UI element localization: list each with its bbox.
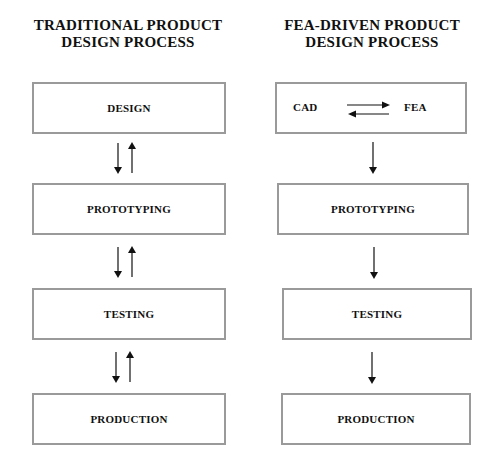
- down-arrow-icon: [367, 245, 381, 281]
- down-arrow-icon: [366, 140, 380, 176]
- traditional-process-title: TRADITIONAL PRODUCT DESIGN PROCESS: [18, 17, 238, 51]
- production-box: PRODUCTION: [32, 393, 226, 445]
- testing-box: TESTING: [32, 288, 226, 340]
- cad-fea-box: CAD FEA: [275, 82, 467, 134]
- down-arrow-icon: [365, 350, 379, 386]
- step-label: TESTING: [352, 308, 402, 320]
- title-line: TRADITIONAL PRODUCT: [18, 17, 238, 34]
- fea-production-box: PRODUCTION: [281, 393, 471, 445]
- cad-label: CAD: [293, 101, 317, 113]
- step-label: PRODUCTION: [337, 413, 414, 425]
- title-line: FEA-DRIVEN PRODUCT: [262, 17, 482, 34]
- fea-testing-box: TESTING: [282, 288, 472, 340]
- bidirectional-arrow-icon: [110, 244, 140, 280]
- step-label: PROTOTYPING: [87, 203, 171, 215]
- bidirectional-arrow-icon: [110, 140, 140, 176]
- fea-label: FEA: [404, 101, 427, 113]
- bidirectional-arrow-icon: [108, 349, 138, 385]
- fea-prototyping-box: PROTOTYPING: [277, 183, 469, 235]
- bidirectional-horizontal-arrow-icon: [345, 98, 393, 120]
- design-box: DESIGN: [32, 82, 226, 134]
- title-line: DESIGN PROCESS: [262, 34, 482, 51]
- step-label: TESTING: [104, 308, 154, 320]
- step-label: PROTOTYPING: [331, 203, 415, 215]
- fea-process-title: FEA-DRIVEN PRODUCT DESIGN PROCESS: [262, 17, 482, 51]
- step-label: DESIGN: [107, 102, 150, 114]
- step-label: PRODUCTION: [90, 413, 167, 425]
- prototyping-box: PROTOTYPING: [32, 183, 226, 235]
- title-line: DESIGN PROCESS: [18, 34, 238, 51]
